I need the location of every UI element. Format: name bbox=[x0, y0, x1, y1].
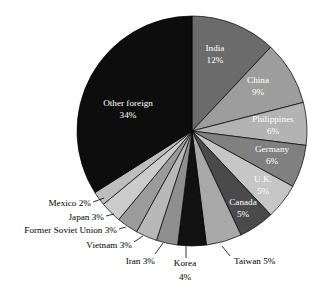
leader-line-vietnam bbox=[134, 236, 143, 242]
slice-value-u-k: 5% bbox=[257, 186, 270, 196]
slice-label-philippines: Philippines bbox=[252, 114, 294, 124]
leader-line-former-soviet-union bbox=[119, 227, 126, 229]
leader-line-iran bbox=[155, 243, 163, 254]
slice-label-canada: Canada bbox=[229, 197, 257, 207]
slice-value-germany: 6% bbox=[266, 156, 279, 166]
slice-value-canada: 5% bbox=[237, 209, 250, 219]
slice-label-u-k: U.K. bbox=[254, 174, 272, 184]
slice-label-germany: Germany bbox=[255, 144, 290, 154]
slice-value-other-foreign: 34% bbox=[120, 110, 137, 120]
leader-line-taiwan bbox=[222, 246, 230, 256]
pie-chart-figure: India12%China9%Philippines6%Germany6%U.K… bbox=[0, 0, 317, 296]
slice-label-vietnam: Vietnam 3% bbox=[86, 240, 132, 250]
slice-label-china: China bbox=[247, 75, 269, 85]
slice-value-korea: 4% bbox=[179, 272, 192, 282]
slice-label-india: India bbox=[206, 43, 225, 53]
slice-label-mexico: Mexico 2% bbox=[48, 198, 91, 208]
slice-label-former-soviet-union: Former Soviet Union 3% bbox=[24, 225, 117, 235]
slice-value-philippines: 6% bbox=[267, 126, 280, 136]
slice-label-other-foreign: Other foreign bbox=[103, 98, 153, 108]
leader-line-japan bbox=[106, 214, 114, 216]
slice-label-taiwan: Taiwan 5% bbox=[234, 256, 276, 266]
slice-label-korea: Korea bbox=[174, 258, 196, 268]
slice-label-japan: Japan 3% bbox=[69, 212, 105, 222]
slice-value-china: 9% bbox=[252, 87, 265, 97]
slice-label-iran: Iran 3% bbox=[126, 256, 156, 266]
slice-value-india: 12% bbox=[207, 55, 224, 65]
pie-chart-canvas: India12%China9%Philippines6%Germany6%U.K… bbox=[0, 0, 317, 296]
